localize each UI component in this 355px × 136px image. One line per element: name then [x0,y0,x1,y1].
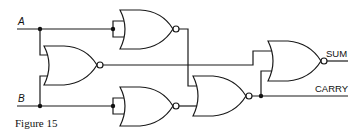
nor-gate-2 [44,46,103,85]
nor-gate-1 [111,10,179,49]
junction-g1 [111,27,115,31]
inverter-bubble [246,93,252,99]
input-label-b: B [18,93,25,104]
inverter-bubble [173,103,179,109]
nor-gate-3 [111,87,179,126]
inverter-bubble [173,26,179,32]
nor-gate-5 [268,41,327,81]
output-label-sum: SUM [326,48,347,59]
input-label-a: A [17,16,25,27]
output-label-carry: CARRY [315,83,349,94]
nor-gate-4 [193,76,252,116]
logic-circuit-diagram: A B SUM [0,0,355,136]
inverter-bubble [97,62,103,68]
junction-g3 [111,104,115,108]
figure-caption: Figure 15 [15,117,58,129]
